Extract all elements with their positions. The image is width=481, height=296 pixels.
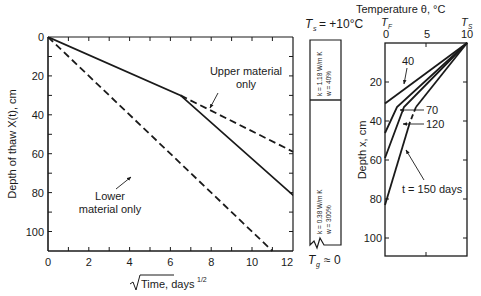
right-plot-frame bbox=[385, 43, 467, 256]
arrow-40-icon bbox=[404, 68, 407, 84]
y-tick-label: 80 bbox=[32, 187, 44, 199]
right-x-tick-labels: 0 5 10 bbox=[383, 28, 473, 40]
y-tick-label: 20 bbox=[32, 70, 44, 82]
svg-text:60: 60 bbox=[370, 154, 382, 166]
annotation-lower-material-only: material only bbox=[79, 203, 142, 215]
figure: 0 20 40 60 80 100 0 2 4 6 8 10 12 Time, … bbox=[0, 0, 481, 296]
svg-text:5: 5 bbox=[424, 28, 430, 40]
x-tick-label: 12 bbox=[281, 256, 293, 268]
annotation-upper-only: only bbox=[236, 78, 257, 90]
svg-text:20: 20 bbox=[370, 76, 382, 88]
profile-150-days-dashed bbox=[410, 107, 416, 122]
left-x-axis-label: Time, days 1/2 bbox=[130, 275, 207, 290]
series-upper-only-dashed bbox=[181, 95, 293, 151]
arrow-upper-icon bbox=[210, 93, 218, 108]
label-70: 70 bbox=[426, 104, 438, 116]
lower-k: k = 0.38 W/m K bbox=[316, 189, 323, 234]
svg-text:0: 0 bbox=[383, 28, 389, 40]
profile-120-days bbox=[385, 43, 467, 158]
svg-text:Time, days: Time, days bbox=[141, 278, 195, 290]
tg-value: ≈ 0 bbox=[324, 253, 341, 267]
x-tick-label: 2 bbox=[86, 256, 92, 268]
x-tick-label: 8 bbox=[208, 256, 214, 268]
arrow-150-icon bbox=[406, 150, 424, 180]
label-150-days: t = 150 days bbox=[402, 183, 463, 195]
svg-text:10: 10 bbox=[461, 28, 473, 40]
lower-w: w = 300% bbox=[325, 205, 332, 235]
y-tick-label: 40 bbox=[32, 109, 44, 121]
right-chart: Temperature θ, °C T F T S 0 5 10 20 40 6… bbox=[356, 3, 473, 256]
y-tick-label: 100 bbox=[26, 226, 44, 238]
left-y-tick-labels: 0 20 40 60 80 100 bbox=[26, 31, 44, 238]
series-layered-solid bbox=[48, 37, 299, 200]
right-chart-title: Temperature θ, °C bbox=[356, 3, 445, 15]
svg-text:100: 100 bbox=[364, 232, 382, 244]
svg-text:g: g bbox=[316, 261, 320, 269]
svg-text:40: 40 bbox=[370, 115, 382, 127]
svg-text:s: s bbox=[313, 25, 317, 32]
label-120: 120 bbox=[426, 118, 444, 130]
x-tick-label: 10 bbox=[246, 256, 258, 268]
left-x-tick-labels: 0 2 4 6 8 10 12 bbox=[45, 256, 293, 268]
left-y-axis-label: Depth of thaw X(t), cm bbox=[6, 89, 18, 198]
x-tick-label: 6 bbox=[167, 256, 173, 268]
soil-column: T s = +10°C k = 1.18 W/m K w = 40% k = 0… bbox=[305, 17, 363, 269]
svg-text:80: 80 bbox=[370, 193, 382, 205]
y-tick-label: 0 bbox=[38, 31, 44, 43]
y-tick-label: 60 bbox=[32, 148, 44, 160]
left-chart: 0 20 40 60 80 100 0 2 4 6 8 10 12 Time, … bbox=[6, 31, 299, 290]
right-y-axis-label: Depth x, cm bbox=[356, 121, 368, 180]
arrow-lower-icon bbox=[116, 177, 131, 189]
x-tick-label: 0 bbox=[45, 256, 51, 268]
right-ticks bbox=[385, 43, 467, 256]
annotation-lower: Lower bbox=[95, 190, 125, 202]
upper-k: k = 1.18 W/m K bbox=[316, 51, 323, 96]
ts-value: = +10°C bbox=[319, 17, 363, 31]
label-40: 40 bbox=[402, 55, 414, 67]
svg-text:1/2: 1/2 bbox=[197, 276, 207, 283]
annotation-upper-material: Upper material bbox=[210, 65, 282, 77]
x-tick-label: 4 bbox=[127, 256, 133, 268]
upper-w: w = 40% bbox=[325, 71, 332, 97]
